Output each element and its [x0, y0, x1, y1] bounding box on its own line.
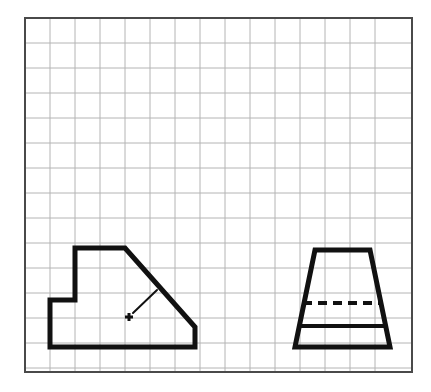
figure-root — [0, 0, 431, 392]
technical-drawing-canvas — [0, 0, 431, 392]
canvas-background — [0, 0, 431, 392]
